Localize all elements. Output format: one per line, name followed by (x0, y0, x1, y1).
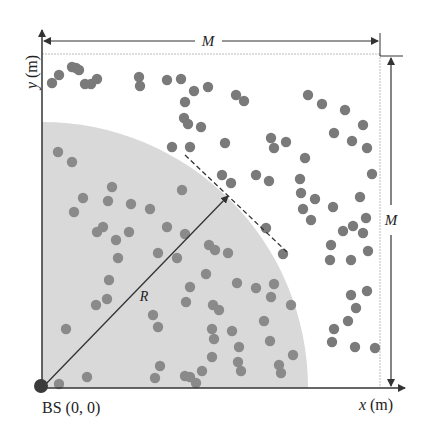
right-dimension-label: M (384, 212, 399, 228)
user-dot (329, 324, 339, 334)
user-dot (207, 324, 217, 334)
user-dot (176, 74, 186, 84)
user-dot (189, 86, 199, 96)
user-dot (355, 192, 365, 202)
user-dot (111, 235, 121, 245)
user-dot (185, 282, 195, 292)
user-dot (370, 343, 380, 353)
user-dot (67, 157, 77, 167)
user-dot (327, 337, 337, 347)
user-dot (233, 357, 243, 367)
user-dot (103, 196, 113, 206)
user-dot (367, 169, 377, 179)
user-dot (347, 136, 357, 146)
user-dot (153, 322, 163, 332)
user-dot (346, 255, 356, 265)
user-dot (53, 147, 63, 157)
user-dot (210, 245, 220, 255)
user-dot (54, 70, 64, 80)
user-dot (126, 199, 136, 209)
user-dot (266, 133, 276, 143)
radius-label: R (139, 289, 149, 304)
user-dot (155, 361, 165, 371)
user-dot (223, 248, 233, 258)
user-dot (203, 82, 213, 92)
user-dot (69, 207, 79, 217)
user-dot (104, 275, 114, 285)
base-station-icon (34, 379, 48, 393)
user-dot (113, 253, 123, 263)
user-dot (98, 222, 108, 232)
user-dot (338, 226, 348, 236)
user-dot (214, 305, 224, 315)
user-dot (310, 194, 320, 204)
user-dot (180, 97, 190, 107)
user-dot (325, 255, 335, 265)
user-dot (167, 142, 177, 152)
user-dot (148, 310, 158, 320)
user-dot (172, 253, 182, 263)
user-dot (180, 229, 190, 239)
user-dot (78, 193, 88, 203)
user-dot (362, 143, 372, 153)
user-dot (124, 227, 134, 237)
user-dot (232, 278, 242, 288)
user-dot (92, 74, 102, 84)
top-dimension-label: M (201, 33, 216, 49)
user-dot (61, 324, 71, 334)
user-dot (361, 213, 371, 223)
user-dot (226, 178, 236, 188)
user-dot (296, 188, 306, 198)
user-dot (363, 246, 373, 256)
user-dot (265, 336, 275, 346)
user-dot (340, 105, 350, 115)
user-dot (269, 279, 279, 289)
user-dot (82, 372, 92, 382)
user-dot (259, 316, 269, 326)
user-dot (102, 294, 112, 304)
user-dot (201, 269, 211, 279)
user-dot (329, 128, 339, 138)
user-dot (181, 297, 191, 307)
user-dot (162, 222, 172, 232)
user-dot (281, 137, 291, 147)
user-dot (362, 286, 372, 296)
user-dot (220, 138, 230, 148)
user-dot (227, 326, 237, 336)
user-dot (328, 202, 338, 212)
user-dot (358, 228, 368, 238)
user-dot (107, 182, 117, 192)
user-dot (298, 204, 308, 214)
user-dot (306, 215, 316, 225)
user-dot (343, 316, 353, 326)
user-dot (326, 240, 336, 250)
origin-label: BS (0, 0) (42, 399, 100, 417)
user-dot (177, 185, 187, 195)
user-dot (185, 142, 195, 152)
user-dot (251, 283, 261, 293)
network-diagram: M M R BS (0, 0) x (m) y (m) (0, 0, 427, 435)
user-dot (236, 366, 246, 376)
user-dot (217, 170, 227, 180)
user-dot (348, 221, 358, 231)
user-dot (264, 176, 274, 186)
user-dot (303, 90, 313, 100)
y-axis-label: y (m) (23, 55, 41, 91)
user-dot (150, 373, 160, 383)
user-dot (350, 342, 360, 352)
user-dot (286, 300, 296, 310)
user-dot (239, 96, 249, 106)
user-dot (47, 78, 57, 88)
x-axis-label: x (m) (358, 396, 393, 414)
user-dot (145, 204, 155, 214)
user-dot (134, 72, 144, 82)
user-dot (274, 360, 284, 370)
user-dot (278, 249, 288, 259)
user-dot (346, 290, 356, 300)
user-dot (162, 75, 172, 85)
user-dot (183, 119, 193, 129)
user-dot (269, 143, 279, 153)
user-dot (207, 352, 217, 362)
user-dot (191, 378, 201, 388)
user-dot (288, 350, 298, 360)
